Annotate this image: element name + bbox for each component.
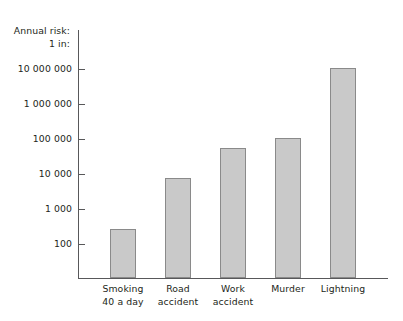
y-tick-label-10000: 10 000	[0, 169, 72, 179]
bar-work-accident	[220, 148, 246, 278]
bar-lightning	[330, 68, 356, 278]
y-tick-mark-10000000	[79, 69, 85, 70]
x-category-label-lightning-line-1: Lightning	[301, 283, 385, 296]
y-tick-label-100: 100	[0, 239, 72, 249]
risk-comparison-bar-chart: Annual risk: 1 in: 10 000 000 1 000 000 …	[0, 0, 403, 321]
y-tick-mark-100	[79, 244, 85, 245]
y-tick-mark-100000	[79, 139, 85, 140]
x-category-label-work-accident-line-2: accident	[191, 296, 275, 309]
x-axis-line	[78, 278, 388, 279]
y-axis-line	[78, 30, 79, 279]
y-tick-label-1000000: 1 000 000	[0, 99, 72, 109]
bar-smoking-40-a-day	[110, 229, 136, 278]
y-axis-title-line-2: 1 in:	[0, 37, 70, 50]
y-tick-mark-1000000	[79, 104, 85, 105]
y-axis-title: Annual risk: 1 in:	[0, 24, 70, 50]
x-category-label-lightning: Lightning	[301, 283, 385, 296]
y-axis-title-line-1: Annual risk:	[0, 24, 70, 37]
y-tick-label-100000: 100 000	[0, 134, 72, 144]
y-tick-label-1000: 1 000	[0, 204, 72, 214]
y-tick-mark-10000	[79, 174, 85, 175]
y-tick-mark-1000	[79, 209, 85, 210]
y-tick-label-10000000: 10 000 000	[0, 64, 72, 74]
bar-road-accident	[165, 178, 191, 278]
bar-murder	[275, 138, 301, 278]
